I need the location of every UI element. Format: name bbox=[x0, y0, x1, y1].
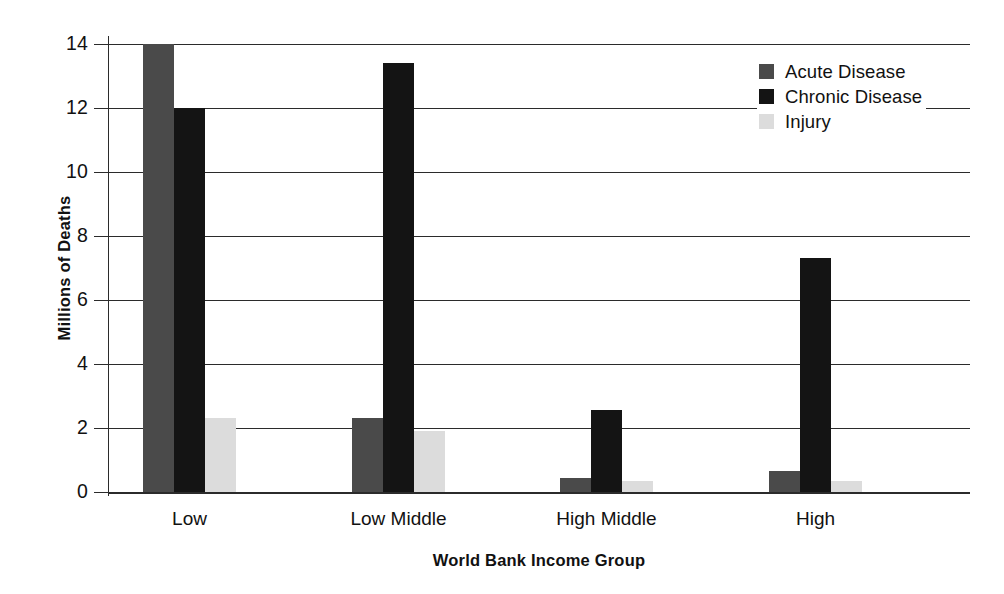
y-tick-label-10: 10 bbox=[56, 160, 88, 183]
y-tick-label-2: 2 bbox=[56, 416, 88, 439]
legend-item-acute-disease: Acute Disease bbox=[759, 59, 922, 84]
x-category-label-high-middle: High Middle bbox=[556, 508, 656, 530]
y-tick-8 bbox=[94, 236, 108, 237]
y-tick-14 bbox=[94, 44, 108, 45]
gridline-8 bbox=[108, 236, 970, 237]
bar-high-acute-disease bbox=[769, 471, 800, 492]
x-category-label-high: High bbox=[796, 508, 835, 530]
y-tick-label-14: 14 bbox=[56, 32, 88, 55]
x-category-label-low: Low bbox=[172, 508, 207, 530]
y-tick-2 bbox=[94, 428, 108, 429]
gridline-6 bbox=[108, 300, 970, 301]
y-tick-label-6: 6 bbox=[56, 288, 88, 311]
bar-high-chronic-disease bbox=[800, 258, 831, 492]
y-tick-10 bbox=[94, 172, 108, 173]
bar-chart: Millions of Deaths 02468101214 LowLow Mi… bbox=[0, 0, 1004, 594]
bar-low-middle-acute-disease bbox=[352, 418, 383, 492]
legend-label-injury: Injury bbox=[785, 111, 831, 133]
gridline-4 bbox=[108, 364, 970, 365]
gridline-10 bbox=[108, 172, 970, 173]
y-tick-12 bbox=[94, 108, 108, 109]
legend-label-chronic-disease: Chronic Disease bbox=[785, 86, 922, 108]
y-axis-title: Millions of Deaths bbox=[55, 196, 74, 341]
y-tick-0 bbox=[94, 492, 108, 493]
legend: Acute Disease Chronic Disease Injury bbox=[757, 57, 926, 136]
bar-low-chronic-disease bbox=[174, 108, 205, 492]
injury-swatch-icon bbox=[759, 114, 774, 129]
bar-low-middle-injury bbox=[414, 431, 445, 492]
acute-disease-swatch-icon bbox=[759, 64, 774, 79]
y-tick-label-8: 8 bbox=[56, 224, 88, 247]
bar-low-acute-disease bbox=[143, 44, 174, 492]
chronic-disease-swatch-icon bbox=[759, 89, 774, 104]
y-tick-6 bbox=[94, 300, 108, 301]
bar-high-injury bbox=[831, 481, 862, 492]
bar-low-middle-chronic-disease bbox=[383, 63, 414, 492]
x-category-label-low-middle: Low Middle bbox=[350, 508, 446, 530]
y-tick-label-0: 0 bbox=[56, 480, 88, 503]
y-tick-label-12: 12 bbox=[56, 96, 88, 119]
x-axis-title: World Bank Income Group bbox=[108, 551, 970, 570]
bar-high-middle-injury bbox=[622, 481, 653, 492]
bar-low-injury bbox=[205, 418, 236, 492]
y-axis-title-container: Millions of Deaths bbox=[0, 44, 40, 492]
legend-item-injury: Injury bbox=[759, 109, 922, 134]
y-tick-label-4: 4 bbox=[56, 352, 88, 375]
bar-high-middle-chronic-disease bbox=[591, 410, 622, 492]
gridline-14 bbox=[108, 44, 970, 45]
bar-high-middle-acute-disease bbox=[560, 478, 591, 492]
y-tick-4 bbox=[94, 364, 108, 365]
gridline-0 bbox=[108, 492, 970, 494]
legend-item-chronic-disease: Chronic Disease bbox=[759, 84, 922, 109]
legend-label-acute-disease: Acute Disease bbox=[785, 61, 906, 83]
gridline-2 bbox=[108, 428, 970, 429]
